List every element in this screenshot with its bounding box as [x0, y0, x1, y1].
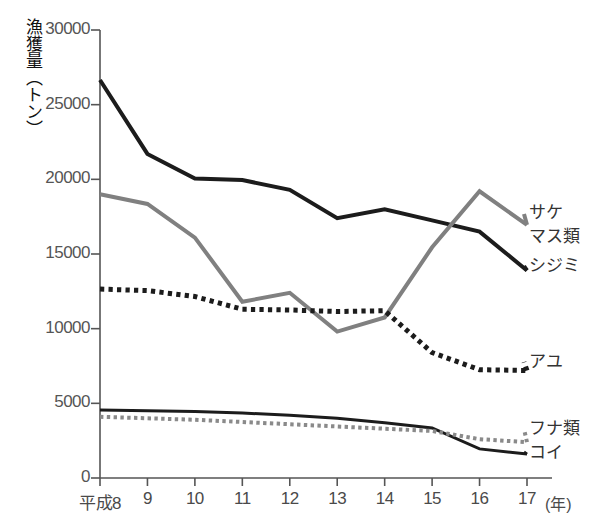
series-label-shijimi: シジミ	[529, 256, 580, 276]
series-leader-4	[524, 429, 527, 442]
x-axis-unit-label: (年)	[545, 491, 572, 515]
y-axis-tick-label: 10000	[18, 318, 90, 338]
series-label-funa: フナ類	[529, 419, 580, 439]
series-line-4	[100, 417, 527, 442]
series-leader-3	[524, 452, 527, 454]
series-line-2	[100, 289, 527, 370]
series-label-koi: コイ	[529, 443, 563, 463]
y-axis-tick-label: 25000	[18, 94, 90, 114]
series-line-3	[100, 410, 527, 454]
y-axis-tick-label: 15000	[18, 243, 90, 263]
y-axis-tick-label: 20000	[18, 168, 90, 188]
y-axis-tick-label: 5000	[18, 392, 90, 412]
series-leader-0	[524, 266, 527, 270]
y-axis-tick-label: 30000	[18, 19, 90, 39]
series-line-0	[100, 80, 527, 270]
series-label-sakemasu-line1: サケ	[529, 203, 563, 223]
y-axis-tick-label: 0	[18, 467, 90, 487]
fishery-catch-line-chart: 漁獲量（トン） 050001000015000200002500030000 平…	[0, 0, 594, 520]
series-leader-2	[524, 362, 527, 370]
series-label-ayu: アユ	[529, 352, 563, 372]
series-label-sakemasu-line2: マス類	[529, 227, 580, 247]
